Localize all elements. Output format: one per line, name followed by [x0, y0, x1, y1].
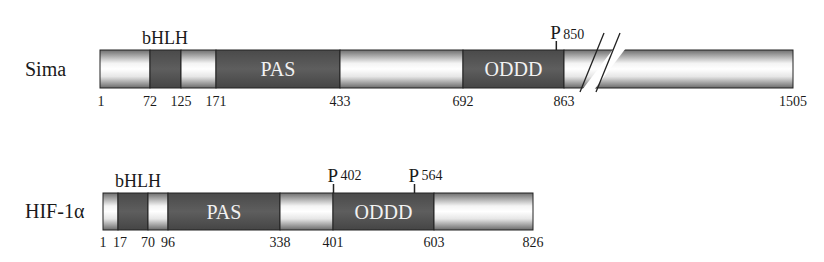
- sima-position-labels: 1721251714336928631505: [98, 94, 808, 109]
- position-label: 17: [113, 235, 127, 250]
- position-label: 171: [206, 94, 227, 109]
- hif1a-segments: PASODDD: [103, 193, 533, 230]
- position-label: 603: [424, 235, 445, 250]
- proline-marker-850: P850: [550, 22, 584, 50]
- sima-proline-markers: P850: [550, 22, 584, 50]
- proline-position: 850: [563, 27, 584, 42]
- position-label: 72: [143, 94, 157, 109]
- sima-segments: PASODDD: [100, 50, 793, 88]
- position-label: 433: [330, 94, 351, 109]
- position-label: 338: [270, 235, 291, 250]
- proline-marker-402: P402: [328, 165, 362, 193]
- linker-segment: [103, 193, 118, 230]
- sima-bhlh-label: bHLH: [142, 28, 188, 48]
- oddd-domain-label: ODDD: [355, 201, 413, 223]
- protein-domain-diagram: Sima PASODDD bHLH 1721251714336928631505…: [0, 0, 824, 262]
- linker-segment: [280, 193, 333, 230]
- proline-letter: P: [328, 165, 339, 186]
- position-label: 401: [323, 235, 344, 250]
- linker-segment: [181, 50, 216, 88]
- proline-position: 402: [341, 168, 362, 183]
- position-label: 125: [171, 94, 192, 109]
- protein-name-sima: Sima: [25, 58, 66, 80]
- position-label: 1: [100, 235, 107, 250]
- linker-segment: [340, 50, 463, 88]
- bhlh-domain: [118, 193, 148, 230]
- position-label: 1: [98, 94, 105, 109]
- position-label: 70: [141, 235, 155, 250]
- bhlh-domain: [150, 50, 181, 88]
- linker-segment: [434, 193, 533, 230]
- protein-hif1a: HIF-1α PASODDD bHLH 1177096338401603826 …: [25, 165, 544, 250]
- linker-segment: [148, 193, 168, 230]
- protein-name-hif1a: HIF-1α: [25, 200, 85, 222]
- hif1a-position-labels: 1177096338401603826: [100, 235, 544, 250]
- hif1a-bhlh-label: bHLH: [115, 171, 161, 191]
- proline-letter: P: [550, 22, 561, 43]
- position-label: 96: [161, 235, 175, 250]
- proline-position: 564: [422, 168, 443, 183]
- position-label: 863: [554, 94, 575, 109]
- position-label: 1505: [779, 94, 807, 109]
- pas-domain-label: PAS: [261, 58, 296, 80]
- position-label: 692: [453, 94, 474, 109]
- proline-letter: P: [409, 165, 420, 186]
- linker-segment: [100, 50, 150, 88]
- protein-sima: Sima PASODDD bHLH 1721251714336928631505…: [25, 22, 807, 109]
- proline-marker-564: P564: [409, 165, 443, 193]
- pas-domain-label: PAS: [207, 201, 242, 223]
- oddd-domain-label: ODDD: [485, 58, 543, 80]
- hif1a-proline-markers: P402P564: [328, 165, 443, 193]
- position-label: 826: [523, 235, 544, 250]
